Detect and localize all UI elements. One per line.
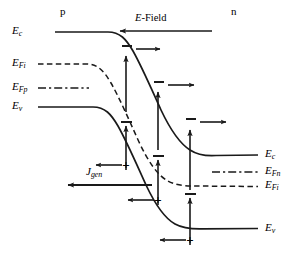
- band-curve-ev: [38, 107, 258, 229]
- left-label-ec-sub: c: [19, 29, 23, 38]
- region-label-p: p: [60, 5, 66, 17]
- right-label-efi-symbol: E: [265, 178, 272, 190]
- region-label-n: n: [231, 5, 237, 17]
- left-label-efp: EFp: [12, 81, 28, 94]
- right-label-efn-symbol: E: [265, 164, 272, 176]
- efield-text: -Field: [141, 12, 166, 23]
- band-curve-ec: [55, 32, 258, 156]
- hole-sign-2: +: [152, 193, 164, 206]
- right-label-ec-sub: c: [272, 152, 276, 161]
- right-label-ev: Ev: [265, 222, 275, 235]
- jgen-label: Jgen: [86, 166, 102, 179]
- left-label-efi-sub: Fi: [19, 61, 26, 70]
- right-label-efn-sub: Fn: [272, 169, 281, 178]
- left-label-ev-symbol: E: [12, 99, 19, 111]
- right-label-ec-symbol: E: [265, 147, 272, 159]
- left-label-ec-symbol: E: [12, 24, 19, 36]
- right-label-ec: Ec: [265, 148, 275, 161]
- jgen-subscript: gen: [91, 170, 102, 179]
- right-label-ev-sub: v: [272, 226, 276, 235]
- left-label-efp-sub: Fp: [19, 85, 28, 94]
- hole-sign-3: +: [184, 233, 196, 246]
- right-label-ev-symbol: E: [265, 221, 272, 233]
- right-label-efi: EFi: [265, 179, 279, 192]
- hole-sign-1: +: [120, 158, 132, 171]
- band-diagram-figure: p n E-Field Jgen Ec EFi EFp Ev Ec EFn EF…: [0, 0, 302, 255]
- right-label-efn: EFn: [265, 165, 281, 178]
- left-label-efi: EFi: [12, 57, 26, 70]
- left-label-ec: Ec: [12, 25, 22, 38]
- efield-label: E-Field: [135, 12, 167, 23]
- right-label-efi-sub: Fi: [272, 183, 279, 192]
- left-label-efp-symbol: E: [12, 80, 19, 92]
- left-label-efi-symbol: E: [12, 56, 19, 68]
- left-label-ev-sub: v: [19, 104, 23, 113]
- left-label-ev: Ev: [12, 100, 22, 113]
- band-diagram-canvas: [0, 0, 302, 255]
